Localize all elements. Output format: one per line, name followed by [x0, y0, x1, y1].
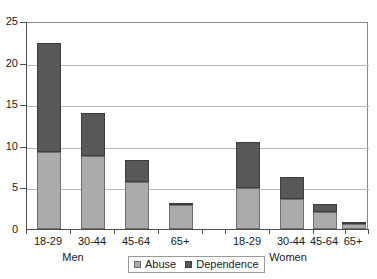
bar-men-18-29	[37, 43, 61, 229]
bar-segment-abuse	[125, 182, 149, 229]
plot-area	[26, 22, 368, 230]
bar-men-30-44	[81, 113, 105, 229]
gridline-15	[27, 106, 369, 107]
legend-label-dependence: Dependence	[196, 259, 258, 270]
y-axis-label-20: 20	[0, 58, 18, 69]
y-axis-label-10: 10	[0, 141, 18, 152]
stacked-bar-chart: 0510152025 18-2930-4445-6465+18-2930-444…	[0, 0, 377, 279]
bar-segment-dependence	[125, 160, 149, 182]
x-tick-9	[368, 230, 369, 234]
x-tick-5	[225, 230, 226, 234]
x-tick-8	[345, 230, 346, 234]
bar-segment-abuse	[236, 188, 260, 229]
y-axis-label-15: 15	[0, 99, 18, 110]
legend-label-abuse: Abuse	[145, 259, 176, 270]
x-tick-1	[70, 230, 71, 234]
bar-segment-abuse	[169, 205, 193, 229]
group-label-men: Men	[28, 251, 118, 263]
bar-segment-dependence	[342, 222, 366, 224]
bar-segment-dependence	[280, 177, 304, 199]
x-tick-6	[269, 230, 270, 234]
y-axis-label-0: 0	[0, 224, 18, 235]
legend-item-dependence: Dependence	[185, 259, 258, 270]
bar-segment-dependence	[81, 113, 105, 155]
bar-segment-dependence	[169, 203, 193, 205]
bar-men-65+	[169, 204, 193, 229]
x-axis-line	[26, 229, 369, 230]
gridline-5	[27, 189, 369, 190]
y-axis-label-5: 5	[0, 182, 18, 193]
x-tick-4	[202, 230, 203, 234]
y-axis-line	[26, 22, 27, 231]
legend-swatch-dependence-icon	[185, 261, 192, 268]
bar-segment-dependence	[236, 142, 260, 188]
x-label-women-65+: 65+	[325, 235, 377, 247]
bar-women-65+	[342, 223, 366, 229]
x-tick-7	[313, 230, 314, 234]
x-tick-0	[26, 230, 27, 234]
x-label-men-65+: 65+	[152, 235, 208, 247]
legend-item-abuse: Abuse	[134, 259, 176, 270]
bar-segment-abuse	[37, 152, 61, 229]
legend-swatch-abuse-icon	[134, 261, 141, 268]
chart-legend: Abuse Dependence	[128, 256, 265, 273]
bar-segment-abuse	[81, 156, 105, 229]
gridline-10	[27, 148, 369, 149]
bar-women-30-44	[280, 177, 304, 229]
bar-segment-dependence	[37, 43, 61, 151]
bar-segment-abuse	[313, 212, 337, 229]
bar-women-18-29	[236, 142, 260, 229]
bar-men-45-64	[125, 160, 149, 229]
x-tick-3	[158, 230, 159, 234]
x-tick-2	[114, 230, 115, 234]
gridline-20	[27, 65, 369, 66]
bar-segment-abuse	[280, 199, 304, 229]
y-axis-label-25: 25	[0, 16, 18, 27]
bar-segment-abuse	[342, 224, 366, 229]
bar-segment-dependence	[313, 204, 337, 212]
bar-women-45-64	[313, 204, 337, 229]
